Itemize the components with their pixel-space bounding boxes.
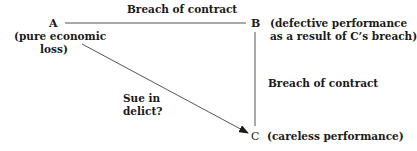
node-a-desc-line2: loss) bbox=[14, 43, 94, 56]
node-a-desc-line1: (pure economic bbox=[14, 30, 94, 43]
edge-a-c-label-line2: delict? bbox=[123, 105, 162, 118]
edge-a-c-label-line1: Sue in bbox=[123, 92, 162, 105]
node-b-desc-line2: as a result of C’s breach) bbox=[270, 30, 417, 43]
edge-a-c-label: Sue in delict? bbox=[123, 92, 162, 118]
edge-a-b-label: Breach of contract bbox=[127, 3, 237, 16]
node-c-letter: C bbox=[251, 130, 259, 143]
node-c-description: (careless performance) bbox=[267, 130, 404, 143]
node-a-description: (pure economic loss) bbox=[14, 30, 94, 56]
edge-a-c-arrow bbox=[82, 44, 248, 133]
node-b-description: (defective performance as a result of C’… bbox=[270, 17, 417, 43]
node-b-letter: B bbox=[251, 17, 260, 30]
node-a-letter: A bbox=[49, 17, 58, 30]
node-b-desc-line1: (defective performance bbox=[270, 17, 417, 30]
edge-b-c-label: Breach of contract bbox=[268, 77, 378, 90]
